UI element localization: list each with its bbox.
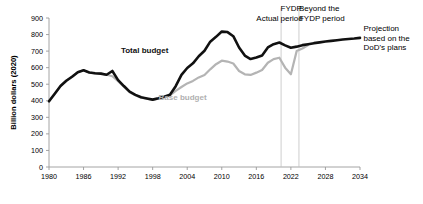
base-budget-label: Base budget [159, 93, 207, 102]
x-tick-label: 2010 [214, 172, 230, 181]
x-tick-label: 1986 [76, 172, 92, 181]
y-tick-label: 800 [31, 30, 43, 39]
y-tick-label: 200 [31, 129, 43, 138]
x-tick-label: 2028 [317, 172, 333, 181]
y-tick-label: 100 [31, 146, 43, 155]
y-tick-label: 700 [31, 47, 43, 56]
x-tick-label: 2034 [352, 172, 368, 181]
projection-note: Projectionbased on theDoD's plans [363, 24, 410, 52]
beyond-fydp-label: Beyond theFYDP period [299, 4, 345, 22]
y-tick-label: 500 [31, 80, 43, 89]
x-tick-label: 1980 [41, 172, 57, 181]
series-line-total-budget [49, 32, 360, 102]
y-tick-label: 400 [31, 96, 43, 105]
x-tick-label: 1992 [110, 172, 126, 181]
budget-projection-chart: 0100200300400500600700800900198019861992… [0, 0, 423, 204]
x-tick-label: 2004 [179, 172, 195, 181]
actual-label: Actual [256, 14, 278, 23]
x-tick-label: 2016 [248, 172, 264, 181]
y-tick-label: 0 [39, 163, 43, 172]
y-tick-label: 600 [31, 63, 43, 72]
y-axis-title: Billion dollars (2020) [9, 55, 18, 130]
y-tick-label: 300 [31, 113, 43, 122]
x-tick-label: 1998 [145, 172, 161, 181]
y-tick-label: 900 [31, 14, 43, 23]
total-budget-label: Total budget [121, 46, 169, 55]
x-tick-label: 2022 [283, 172, 299, 181]
chart-container: 0100200300400500600700800900198019861992… [0, 0, 423, 204]
